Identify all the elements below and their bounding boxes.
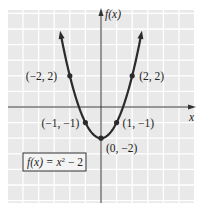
data-point-label: (2, 2) [139, 70, 164, 83]
x-axis-label: x [188, 111, 195, 123]
function-graph: x f(x) (−2, 2)(2, 2)(−1, −1)(1, −1)(0, −… [0, 0, 202, 211]
data-point-marker [114, 120, 119, 125]
data-point-marker [83, 120, 88, 125]
svg-text:f(x) = x2 − 2: f(x) = x2 − 2 [27, 156, 83, 169]
function-label-lhs: f(x) = x [27, 156, 62, 169]
data-point-label: (1, −1) [123, 117, 155, 130]
data-point-marker [67, 73, 72, 78]
function-label-rhs: − 2 [65, 156, 83, 168]
data-point-label: (−1, −1) [41, 117, 79, 130]
function-label-box: f(x) = x2 − 2 [23, 153, 86, 171]
data-point-label: (0, −2) [106, 142, 138, 155]
data-point-marker [130, 73, 135, 78]
data-point-marker [98, 136, 103, 141]
y-axis-label: f(x) [105, 8, 121, 21]
data-point-label: (−2, 2) [26, 70, 58, 83]
